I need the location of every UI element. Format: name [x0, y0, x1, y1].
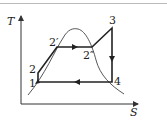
y-axis-label: T — [7, 16, 14, 27]
point-label-2-prime: 2′ — [49, 37, 59, 48]
x-axis-label: S — [130, 107, 138, 118]
point-label-3: 3 — [109, 15, 116, 26]
point-label-1: 1 — [29, 78, 36, 89]
point-label-2: 2 — [29, 64, 36, 75]
point-label-2-double-prime: 2″ — [83, 50, 94, 61]
ts-diagram — [0, 0, 167, 128]
point-label-4: 4 — [114, 76, 121, 87]
saturation-dome — [28, 29, 124, 95]
flow-arrows — [35, 44, 115, 85]
